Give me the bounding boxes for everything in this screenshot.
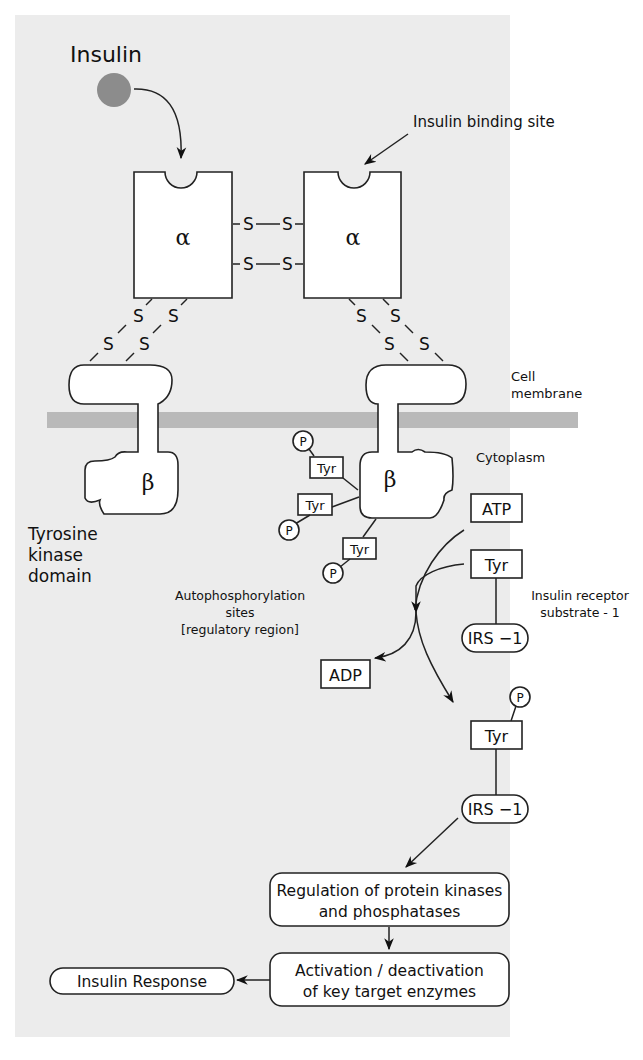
svg-text:Tyr: Tyr bbox=[349, 542, 370, 557]
activation-line-1: Activation / deactivation bbox=[295, 962, 484, 980]
beta-label-right: β bbox=[384, 467, 397, 492]
tyrosine-kinase-label-1: Tyrosine bbox=[27, 524, 98, 544]
svg-text:S: S bbox=[168, 306, 179, 326]
alpha-label-right: α bbox=[346, 225, 361, 250]
svg-text:S: S bbox=[139, 334, 150, 354]
atp-label: ATP bbox=[482, 500, 511, 519]
svg-text:S: S bbox=[243, 254, 254, 274]
insulin-arrow bbox=[134, 89, 181, 158]
regulation-line-1: Regulation of protein kinases bbox=[277, 882, 503, 900]
insulin-response-label: Insulin Response bbox=[77, 973, 207, 991]
autophosphorylation-label-2: sites bbox=[225, 605, 254, 620]
insulin-molecule-icon bbox=[97, 73, 131, 107]
svg-text:S: S bbox=[243, 214, 254, 234]
irs-description-2: substrate - 1 bbox=[540, 605, 620, 620]
beta-label-left: β bbox=[142, 470, 155, 495]
binding-site-label: Insulin binding site bbox=[413, 113, 555, 131]
phospho-irs1-label: IRS −1 bbox=[468, 800, 523, 819]
cell-membrane-label-1: Cell bbox=[511, 369, 535, 384]
adp-label: ADP bbox=[329, 666, 362, 685]
cell-membrane-label-2: membrane bbox=[511, 386, 582, 401]
phospho-tyr-label: Tyr bbox=[484, 727, 509, 746]
alpha-beta-disulfide-right: S S S S bbox=[349, 299, 443, 361]
tyr-reaction-curve bbox=[416, 564, 464, 612]
svg-text:S: S bbox=[356, 306, 367, 326]
phosphate-link bbox=[511, 706, 516, 721]
svg-text:S: S bbox=[103, 334, 114, 354]
svg-text:S: S bbox=[282, 214, 293, 234]
svg-text:S: S bbox=[384, 334, 395, 354]
irs-description-1: Insulin receptor bbox=[531, 588, 629, 603]
autophosphorylation-site-1: P Tyr bbox=[293, 431, 358, 490]
cell-membrane bbox=[47, 412, 578, 428]
phospho-tyr-arrow bbox=[416, 612, 453, 702]
autophosphorylation-site-3: Tyr P bbox=[323, 519, 376, 583]
tyr-substrate-label: Tyr bbox=[484, 556, 509, 575]
autophosphorylation-site-2: Tyr P bbox=[279, 494, 359, 540]
svg-text:S: S bbox=[282, 254, 293, 274]
cytoplasm-label: Cytoplasm bbox=[476, 450, 545, 465]
alpha-label-left: α bbox=[176, 225, 191, 250]
svg-text:S: S bbox=[133, 306, 144, 326]
tyrosine-kinase-label-2: kinase bbox=[28, 545, 83, 565]
regulation-line-2: and phosphatases bbox=[319, 903, 461, 921]
svg-text:P: P bbox=[329, 567, 336, 581]
irs1-substrate-label: IRS −1 bbox=[468, 629, 523, 648]
svg-text:P: P bbox=[299, 435, 306, 449]
svg-text:Tyr: Tyr bbox=[316, 461, 337, 476]
alpha-disulfide-bonds: S S S S bbox=[233, 214, 303, 274]
binding-site-arrow bbox=[365, 134, 408, 164]
insulin-label: Insulin bbox=[70, 42, 142, 67]
atp-reaction-curve bbox=[415, 530, 464, 610]
autophosphorylation-label-1: Autophosphorylation bbox=[175, 588, 305, 603]
insulin-receptor-diagram: Insulin Insulin binding site α α S S S S… bbox=[0, 0, 643, 1060]
tyrosine-kinase-label-3: domain bbox=[28, 566, 92, 586]
phosphate-label: P bbox=[516, 691, 523, 705]
alpha-beta-disulfide-left: S S S S bbox=[90, 299, 187, 361]
svg-text:S: S bbox=[390, 306, 401, 326]
irs-to-regulation-arrow bbox=[406, 818, 458, 867]
autophosphorylation-label-3: [regulatory region] bbox=[181, 622, 299, 637]
svg-text:P: P bbox=[285, 524, 292, 538]
svg-text:Tyr: Tyr bbox=[305, 498, 326, 513]
activation-line-2: of key target enzymes bbox=[303, 983, 476, 1001]
svg-text:S: S bbox=[419, 334, 430, 354]
beta-subunit-right bbox=[360, 365, 466, 518]
adp-arrow bbox=[375, 612, 416, 658]
beta-subunit-left bbox=[69, 365, 178, 514]
